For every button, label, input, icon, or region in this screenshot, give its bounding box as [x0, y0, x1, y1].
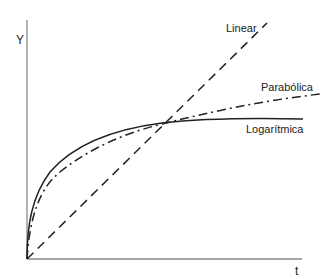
linear-curve — [27, 23, 267, 259]
parabolic-label: Parabólica — [261, 82, 313, 93]
x-axis-label: t — [295, 265, 298, 277]
growth-curves-diagram — [0, 0, 333, 279]
y-axis-label: Y — [16, 34, 24, 46]
linear-label: Linear — [226, 23, 257, 34]
logarithmic-curve — [27, 118, 303, 259]
logarithmic-label: Logarítmica — [246, 124, 303, 135]
